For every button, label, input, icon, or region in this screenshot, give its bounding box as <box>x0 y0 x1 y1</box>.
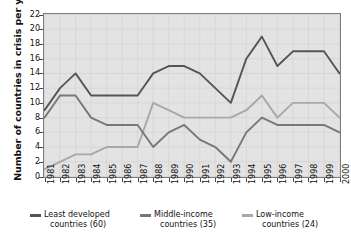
y-axis-tick-label: 22 <box>22 11 40 19</box>
gridlines <box>44 14 340 177</box>
x-axis-tick-label: 1991 <box>203 164 211 184</box>
x-axis-tick-mark <box>215 178 216 182</box>
x-axis-tick-label: 1999 <box>327 164 335 184</box>
plot-area <box>43 13 341 178</box>
legend-label-line1: Least developed <box>44 210 110 220</box>
x-axis-tick-label: 1996 <box>280 164 288 184</box>
x-axis-tick-label: 1992 <box>218 164 226 184</box>
legend-label-line2: countries (24) <box>262 220 318 230</box>
x-axis-tick-label: 1987 <box>141 164 149 184</box>
x-axis-tick-mark <box>76 178 77 182</box>
x-axis-tick-label: 1981 <box>48 164 56 184</box>
legend-item-low-income-countries[interactable]: Low-income countries (24) <box>242 210 318 230</box>
x-axis-tick-label: 1988 <box>156 164 164 184</box>
x-axis-tick-mark <box>293 178 294 182</box>
chart-lines <box>44 14 340 177</box>
x-axis-tick-label: 1984 <box>94 164 102 184</box>
x-axis-tick-mark <box>184 178 185 182</box>
legend-label-line1: Middle-income <box>154 210 216 220</box>
chart-legend: Least developed countries (60) Middle-in… <box>30 210 340 238</box>
y-axis-tick-label: 6 <box>22 128 40 136</box>
x-axis-tick-mark <box>122 178 123 182</box>
y-axis-tick-label: 2 <box>22 158 40 166</box>
legend-item-middle-income-countries[interactable]: Middle-income countries (35) <box>140 210 216 230</box>
x-axis-tick-mark <box>153 178 154 182</box>
x-axis-tick-mark <box>91 178 92 182</box>
x-axis-tick-label: 2000 <box>343 164 351 184</box>
x-axis-tick-mark <box>324 178 325 182</box>
x-axis-tick-label: 1989 <box>172 164 180 184</box>
x-axis-tick-label: 1982 <box>63 164 71 184</box>
x-axis-tick-mark <box>169 178 170 182</box>
x-axis-tick-mark <box>200 178 201 182</box>
series-line <box>45 96 340 162</box>
x-axis-tick-mark <box>60 178 61 182</box>
x-axis-tick-mark <box>231 178 232 182</box>
x-axis-tick-label: 1986 <box>125 164 133 184</box>
x-axis-tick-label: 1997 <box>296 164 304 184</box>
legend-swatch-icon <box>140 214 151 217</box>
legend-swatch-icon <box>242 214 253 217</box>
x-axis-tick-label: 1985 <box>110 164 118 184</box>
x-axis-tick-mark <box>340 178 341 182</box>
y-axis-tick-label: 20 <box>22 25 40 33</box>
x-axis-tick-label: 1995 <box>265 164 273 184</box>
legend-label-line2: countries (60) <box>50 220 110 230</box>
y-axis-tick-label: 10 <box>22 99 40 107</box>
y-axis-tick-label: 0 <box>22 173 40 181</box>
x-axis-tick-mark <box>246 178 247 182</box>
legend-swatch-icon <box>30 214 41 217</box>
x-axis-tick-mark <box>262 178 263 182</box>
y-axis-tick-label: 12 <box>22 84 40 92</box>
y-axis-tick-label: 16 <box>22 55 40 63</box>
legend-item-least-developed-countries[interactable]: Least developed countries (60) <box>30 210 110 230</box>
y-axis-tick-label: 4 <box>22 143 40 151</box>
x-axis-tick-label: 1998 <box>311 164 319 184</box>
x-axis-tick-label: 1994 <box>249 164 257 184</box>
y-axis-tick-label: 8 <box>22 114 40 122</box>
y-axis-tick-label: 14 <box>22 69 40 77</box>
x-axis-tick-mark <box>308 178 309 182</box>
x-axis-tick-mark <box>277 178 278 182</box>
y-axis-tick-label: 18 <box>22 40 40 48</box>
x-axis-tick-label: 1993 <box>234 164 242 184</box>
x-axis-tick-mark <box>45 178 46 182</box>
x-axis-tick-label: 1990 <box>187 164 195 184</box>
x-axis-tick-mark <box>107 178 108 182</box>
x-axis-tick-label: 1983 <box>79 164 87 184</box>
legend-label-line2: countries (35) <box>160 220 216 230</box>
x-axis-tick-mark <box>138 178 139 182</box>
legend-label-line1: Low-income <box>256 210 318 220</box>
